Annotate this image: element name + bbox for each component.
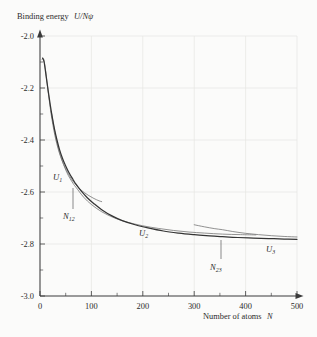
- annotation-label-n12-sub: 12: [69, 216, 75, 222]
- x-axis-title-symbol: N: [266, 312, 273, 321]
- y-tick-label-0: -3.0: [21, 292, 34, 301]
- x-tick-label-5: 500: [291, 302, 304, 311]
- x-tick-label-4: 400: [239, 302, 252, 311]
- y-tick-label-3: -2.4: [21, 136, 35, 145]
- y-tick-label-5: -2.0: [21, 32, 34, 41]
- x-tick-label-0: 0: [38, 302, 42, 311]
- x-axis-title: Number of atoms N: [203, 312, 273, 321]
- x-tick-label-2: 200: [137, 302, 150, 311]
- x-tick-label-3: 300: [188, 302, 201, 311]
- binding-energy-chart: -3.0-2.8-2.6-2.4-2.2-2.0 010020030040050…: [0, 0, 317, 337]
- figure-background: [0, 0, 317, 337]
- curve-label-u2-sub: 2: [145, 233, 148, 239]
- curve-label-u3-sub: 3: [271, 249, 275, 255]
- y-axis-title: Binding energy U/Nψ: [17, 12, 94, 21]
- y-tick-label-1: -2.8: [21, 240, 34, 249]
- y-axis-title-text: Binding energy: [17, 12, 70, 21]
- annotation-label-n23-sub: 23: [216, 267, 222, 273]
- y-tick-label-2: -2.6: [21, 188, 34, 197]
- y-tick-label-4: -2.2: [21, 84, 34, 93]
- figure-container: -3.0-2.8-2.6-2.4-2.2-2.0 010020030040050…: [0, 0, 317, 337]
- y-axis-title-symbol: U/Nψ: [74, 12, 94, 21]
- curve-label-u1-sub: 1: [59, 177, 62, 183]
- x-tick-label-1: 100: [85, 302, 98, 311]
- x-axis-title-text: Number of atoms: [203, 312, 262, 321]
